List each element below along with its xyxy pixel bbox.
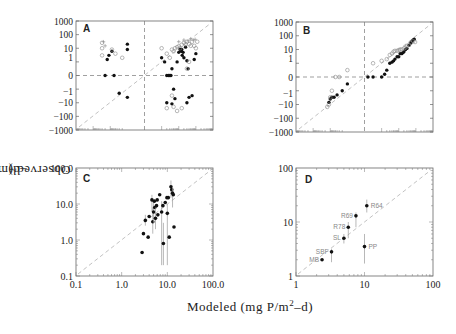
filled-point: [165, 101, 168, 104]
data-point: [342, 236, 346, 240]
open-point: [160, 46, 164, 50]
open-point: [330, 89, 334, 93]
data-point: [140, 251, 144, 255]
filled-point: [181, 51, 184, 54]
open-point: [180, 43, 184, 47]
one-to-one-line: [299, 24, 431, 129]
data-point: [330, 250, 334, 254]
data-point: [346, 225, 350, 229]
y-tick-label: −10: [58, 98, 73, 108]
data-point: [170, 188, 174, 192]
filled-point: [126, 96, 129, 99]
filled-point: [190, 94, 193, 97]
y-tick-label: −100: [273, 114, 293, 124]
filled-point: [107, 54, 110, 57]
data-point: [171, 193, 175, 197]
filled-point: [170, 67, 173, 70]
y-tick-label: 100: [279, 31, 294, 41]
filled-point: [103, 74, 106, 77]
data-point: [363, 245, 367, 249]
data-point: [167, 196, 171, 200]
y-tick-label: 100: [278, 163, 293, 174]
point-label: SBF: [316, 248, 329, 255]
x-tick-label: 100: [426, 279, 441, 290]
y-tick-label: 0: [288, 73, 293, 83]
panel-letter: B: [303, 25, 310, 36]
filled-point: [346, 82, 349, 85]
data-point: [152, 210, 156, 214]
filled-point: [172, 87, 175, 90]
y-tick-label: −100: [53, 112, 73, 122]
data-point: [147, 215, 151, 219]
y-tick-label: −1000: [49, 126, 74, 136]
filled-point: [118, 92, 121, 95]
filled-point: [371, 75, 374, 78]
data-point: [155, 204, 159, 208]
data-point: [320, 258, 324, 262]
data-point: [146, 235, 150, 239]
data-point: [167, 235, 171, 239]
filled-point: [187, 96, 190, 99]
data-point: [172, 225, 176, 229]
y-tick-label: 0: [68, 71, 73, 81]
open-point: [173, 46, 177, 50]
y-tick-label: 1000: [274, 18, 293, 28]
open-point: [100, 46, 104, 50]
filled-point: [193, 58, 196, 61]
plots-canvas: 10001001010−1−10−100−1000A10001001010−1−…: [0, 0, 456, 334]
y-tick-label: 1: [68, 53, 73, 63]
data-point: [142, 232, 146, 236]
y-tick-label: −1: [63, 87, 73, 97]
y-tick-label: 1: [288, 54, 293, 64]
open-point: [100, 54, 104, 58]
filled-point: [380, 75, 383, 78]
data-point: [156, 213, 160, 217]
point-label: MB: [309, 256, 319, 263]
figure: Observed (mg P/m2–d) Modeled (mg P/m2–d)…: [0, 0, 456, 334]
open-point: [120, 56, 124, 60]
open-point: [346, 68, 350, 72]
open-point: [172, 105, 176, 109]
filled-point: [335, 93, 338, 96]
point-label: SL: [333, 234, 341, 241]
filled-point: [182, 56, 185, 59]
point-label: R69: [341, 212, 353, 219]
x-tick-label: 100.0: [202, 279, 225, 290]
data-point: [160, 210, 164, 214]
panel-c: 0.11.010.0100.0100.010.01.00.1C: [51, 163, 225, 291]
panel-a: 10001001010−1−10−100−1000A: [49, 17, 213, 136]
y-tick-label: 1: [288, 271, 293, 282]
panel-b: 10001001010−1−10−100−1000B: [269, 18, 433, 138]
y-tick-label: 100.0: [51, 163, 74, 174]
filled-point: [341, 89, 344, 92]
open-point: [170, 94, 174, 98]
y-tick-label: 10: [283, 217, 293, 228]
data-point: [155, 198, 159, 202]
open-point: [195, 40, 199, 44]
data-point: [151, 220, 155, 224]
panel-d: 110100100101DMBSBFSLR78R69R64PP: [278, 163, 441, 291]
filled-point: [185, 101, 188, 104]
x-tick-label: 10.0: [159, 279, 177, 290]
y-tick-label: −1: [283, 89, 293, 99]
filled-point: [332, 96, 335, 99]
data-point: [354, 214, 358, 218]
filled-point: [194, 52, 197, 55]
open-point: [180, 106, 184, 110]
x-tick-label: 1.0: [115, 279, 128, 290]
filled-point: [163, 60, 166, 63]
y-tick-label: 10.0: [56, 199, 74, 210]
x-tick-label: 10: [360, 279, 370, 290]
y-tick-label: −10: [278, 100, 293, 110]
panel-letter: A: [83, 23, 90, 34]
filled-point: [160, 56, 163, 59]
point-label: R64: [371, 202, 383, 209]
filled-point: [106, 58, 109, 61]
filled-point: [185, 59, 188, 62]
filled-point: [397, 55, 400, 58]
data-point: [166, 212, 170, 216]
data-point: [161, 204, 165, 208]
y-tick-label: 100: [59, 30, 74, 40]
filled-point: [126, 48, 129, 51]
panel-letter: D: [305, 174, 312, 185]
